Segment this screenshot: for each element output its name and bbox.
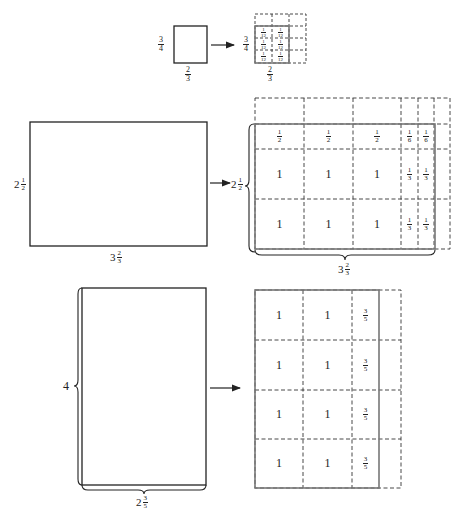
bottom-grid-cell: 1 — [255, 439, 303, 488]
bottom-grid-cell: 35 — [352, 290, 379, 340]
bottom-left-brace — [74, 288, 82, 485]
bottom-grid-cell: 1 — [303, 390, 352, 439]
middle-original-height-label: 212 — [14, 177, 26, 192]
middle-original-rect — [30, 122, 207, 246]
bottom-grid-cell: 1 — [255, 390, 303, 439]
bottom-grid-cell: 1 — [303, 290, 352, 340]
bottom-original-rect — [82, 288, 206, 485]
middle-bottom-brace — [255, 250, 435, 260]
middle-grid-cell: 1 — [353, 149, 401, 199]
small-grid-cell: 112 — [272, 26, 289, 38]
bottom-grid-cell: 1 — [303, 340, 352, 390]
small-grid-cell: 112 — [272, 38, 289, 50]
bottom-grid-cell: 1 — [255, 340, 303, 390]
bottom-grid-cell: 35 — [352, 439, 379, 488]
middle-grid-height-label: 212 — [231, 177, 243, 192]
middle-grid-cell: 1 — [304, 149, 353, 199]
bottom-bottom-brace — [82, 485, 206, 494]
middle-grid-cell: 1 — [353, 199, 401, 249]
middle-grid-cell: 16 — [418, 124, 434, 149]
small-original-width-label: 23 — [185, 66, 191, 83]
small-grid-cell: 112 — [255, 38, 272, 50]
middle-grid-cell: 1 — [255, 199, 304, 249]
small-grid-cell: 112 — [272, 50, 289, 63]
middle-grid-cell: 12 — [255, 124, 304, 149]
middle-grid-cell: 1 — [304, 199, 353, 249]
middle-grid-cell: 13 — [418, 199, 434, 249]
middle-grid-cell: 12 — [353, 124, 401, 149]
diagram-canvas — [0, 0, 468, 527]
small-original-height-label: 34 — [158, 36, 164, 53]
small-grid-height-label: 34 — [243, 36, 249, 53]
middle-grid-cell: 12 — [304, 124, 353, 149]
small-original-rect — [174, 26, 207, 63]
bottom-grid-cell: 1 — [255, 290, 303, 340]
middle-grid-width-label: 323 — [338, 262, 350, 277]
middle-grid-cell: 13 — [401, 149, 418, 199]
middle-original-width-label: 323 — [110, 250, 122, 265]
middle-grid-cell: 13 — [401, 199, 418, 249]
bottom-original-width-label: 235 — [136, 495, 148, 510]
small-grid-cell: 112 — [255, 50, 272, 63]
bottom-grid-cell: 1 — [303, 439, 352, 488]
middle-grid-cell: 16 — [401, 124, 418, 149]
small-grid-cell: 112 — [255, 26, 272, 38]
bottom-grid-cell: 35 — [352, 340, 379, 390]
middle-left-brace — [245, 124, 255, 252]
middle-grid-cell: 13 — [418, 149, 434, 199]
bottom-original-height-label: 4 — [63, 380, 69, 392]
small-grid-width-label: 23 — [267, 66, 273, 83]
middle-grid-cell: 1 — [255, 149, 304, 199]
bottom-grid-cell: 35 — [352, 390, 379, 439]
